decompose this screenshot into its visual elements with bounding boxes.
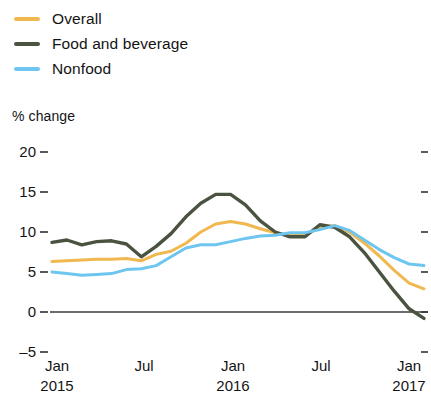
y-tick-label: 20	[19, 143, 36, 160]
y-tick-label: –5	[19, 343, 36, 360]
y-tick-label: 15	[19, 183, 36, 200]
x-tick-label-year: 2017	[392, 377, 425, 394]
x-tick-label-month: Jan	[397, 357, 421, 374]
chart-figure: Overall Food and beverage Nonfood % chan…	[0, 0, 431, 401]
x-tick-label-month: Jan	[221, 357, 245, 374]
y-tick-label: 0	[28, 303, 36, 320]
x-tick-label-month: Jan	[45, 357, 69, 374]
chart-plot-area: 20151050–5 Jan2015JulJan2016JulJan2017	[0, 0, 431, 401]
y-axis-tick-labels: 20151050–5	[19, 143, 36, 360]
y-axis-ticks-right	[421, 152, 428, 352]
x-tick-label-month: Jul	[134, 357, 153, 374]
x-axis-tick-labels: Jan2015JulJan2016JulJan2017	[40, 357, 425, 394]
chart-series	[52, 194, 424, 318]
x-tick-label-year: 2016	[216, 377, 249, 394]
x-tick-label-month: Jul	[311, 357, 330, 374]
y-axis-ticks-left	[40, 152, 48, 352]
x-tick-label-year: 2015	[40, 377, 73, 394]
y-tick-label: 10	[19, 223, 36, 240]
series-line-food-and-beverage	[52, 194, 424, 318]
y-tick-label: 5	[28, 263, 36, 280]
series-line-nonfood	[52, 226, 424, 276]
